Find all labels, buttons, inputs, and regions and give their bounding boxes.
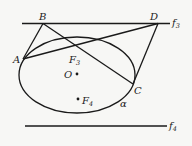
label-a: A bbox=[12, 54, 20, 65]
label-d: D bbox=[149, 11, 158, 22]
label-f3-point: F3 bbox=[68, 54, 80, 67]
label-f3: f3 bbox=[171, 17, 180, 30]
geometry-diagram: B D f3 A F3 O F4 C α f4 bbox=[0, 0, 192, 146]
segment-dc bbox=[133, 24, 158, 85]
label-o: O bbox=[64, 69, 72, 80]
label-c: C bbox=[134, 85, 142, 96]
label-b: B bbox=[38, 11, 46, 22]
point-o bbox=[76, 73, 79, 76]
label-f4-point: F4 bbox=[81, 95, 93, 108]
segment-ad bbox=[23, 24, 158, 60]
label-alpha: α bbox=[120, 98, 127, 109]
point-f4 bbox=[77, 98, 80, 101]
segment-ab bbox=[23, 24, 43, 60]
segment-bc bbox=[43, 24, 133, 85]
label-f4: f4 bbox=[168, 120, 177, 133]
